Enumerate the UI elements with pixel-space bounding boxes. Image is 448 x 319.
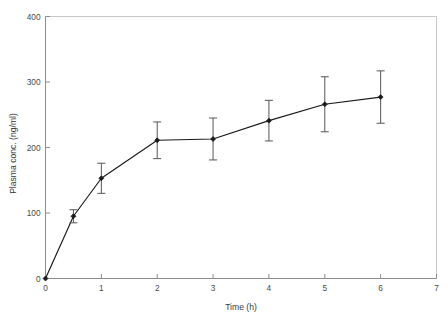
x-tick-label: 3 xyxy=(211,283,216,293)
data-point-marker xyxy=(378,95,383,100)
x-tick-label: 4 xyxy=(267,283,272,293)
data-point-marker xyxy=(211,136,216,141)
x-tick-label: 6 xyxy=(378,283,383,293)
y-tick-label: 0 xyxy=(36,274,41,284)
y-tick-label: 300 xyxy=(27,77,41,87)
plasma-concentration-line-chart: 010020030040001234567Time (h)Plasma conc… xyxy=(0,0,448,319)
data-point-marker xyxy=(322,102,327,107)
data-point-marker xyxy=(43,276,48,281)
x-tick-label: 0 xyxy=(43,283,48,293)
y-tick-label: 400 xyxy=(27,12,41,22)
x-tick-label: 2 xyxy=(155,283,160,293)
y-tick-label: 100 xyxy=(27,208,41,218)
x-tick-label: 7 xyxy=(434,283,439,293)
y-axis-title: Plasma conc. (ng/ml) xyxy=(8,113,18,194)
y-tick-label: 200 xyxy=(27,143,41,153)
chart-figure: 010020030040001234567Time (h)Plasma conc… xyxy=(0,0,448,319)
data-point-marker xyxy=(266,118,271,123)
x-axis-title: Time (h) xyxy=(225,302,257,312)
x-tick-label: 5 xyxy=(322,283,327,293)
x-tick-label: 1 xyxy=(99,283,104,293)
